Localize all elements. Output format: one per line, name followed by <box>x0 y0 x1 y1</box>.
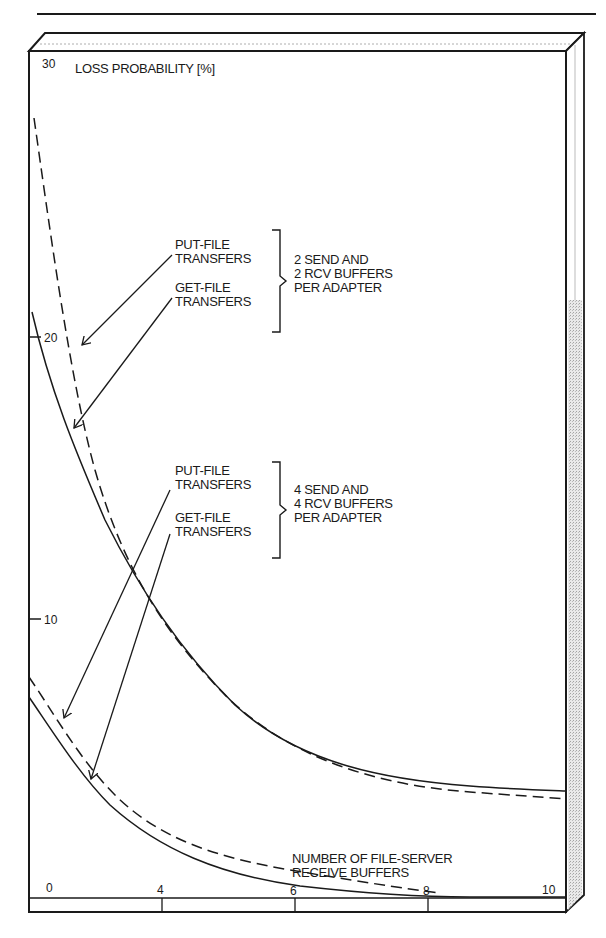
g2-put-label-1: PUT-FILE <box>175 463 230 478</box>
y-label-30: 30 <box>42 57 56 71</box>
loss-probability-chart: 30 20 10 LOSS PROBABILITY [%] 0 4 6 8 10… <box>0 0 606 938</box>
g2-get-label-2: TRANSFERS <box>175 524 252 539</box>
box-right-face-shade <box>568 300 582 910</box>
y-axis-title: LOSS PROBABILITY [%] <box>75 61 215 76</box>
y-label-20: 20 <box>44 331 58 345</box>
box-top-face <box>29 33 584 51</box>
g1-get-label-2: TRANSFERS <box>175 294 252 309</box>
g2-desc-3: PER ADAPTER <box>294 510 382 525</box>
g2-desc-1: 4 SEND AND <box>294 482 368 497</box>
g1-put-label-2: TRANSFERS <box>175 251 252 266</box>
g2-get-label-1: GET-FILE <box>175 510 231 525</box>
g2-put-label-2: TRANSFERS <box>175 477 252 492</box>
x-label-0: 0 <box>46 881 53 895</box>
g1-get-label-1: GET-FILE <box>175 280 231 295</box>
g1-desc-3: PER ADAPTER <box>294 280 382 295</box>
x-label-10: 10 <box>542 883 556 897</box>
x-label-4: 4 <box>157 883 164 897</box>
g1-desc-1: 2 SEND AND <box>294 252 368 267</box>
g2-desc-2: 4 RCV BUFFERS <box>294 496 393 511</box>
g1-put-label-1: PUT-FILE <box>175 237 230 252</box>
y-label-10: 10 <box>44 613 58 627</box>
x-axis-title-line1: NUMBER OF FILE-SERVER <box>292 851 452 866</box>
g1-desc-2: 2 RCV BUFFERS <box>294 266 393 281</box>
